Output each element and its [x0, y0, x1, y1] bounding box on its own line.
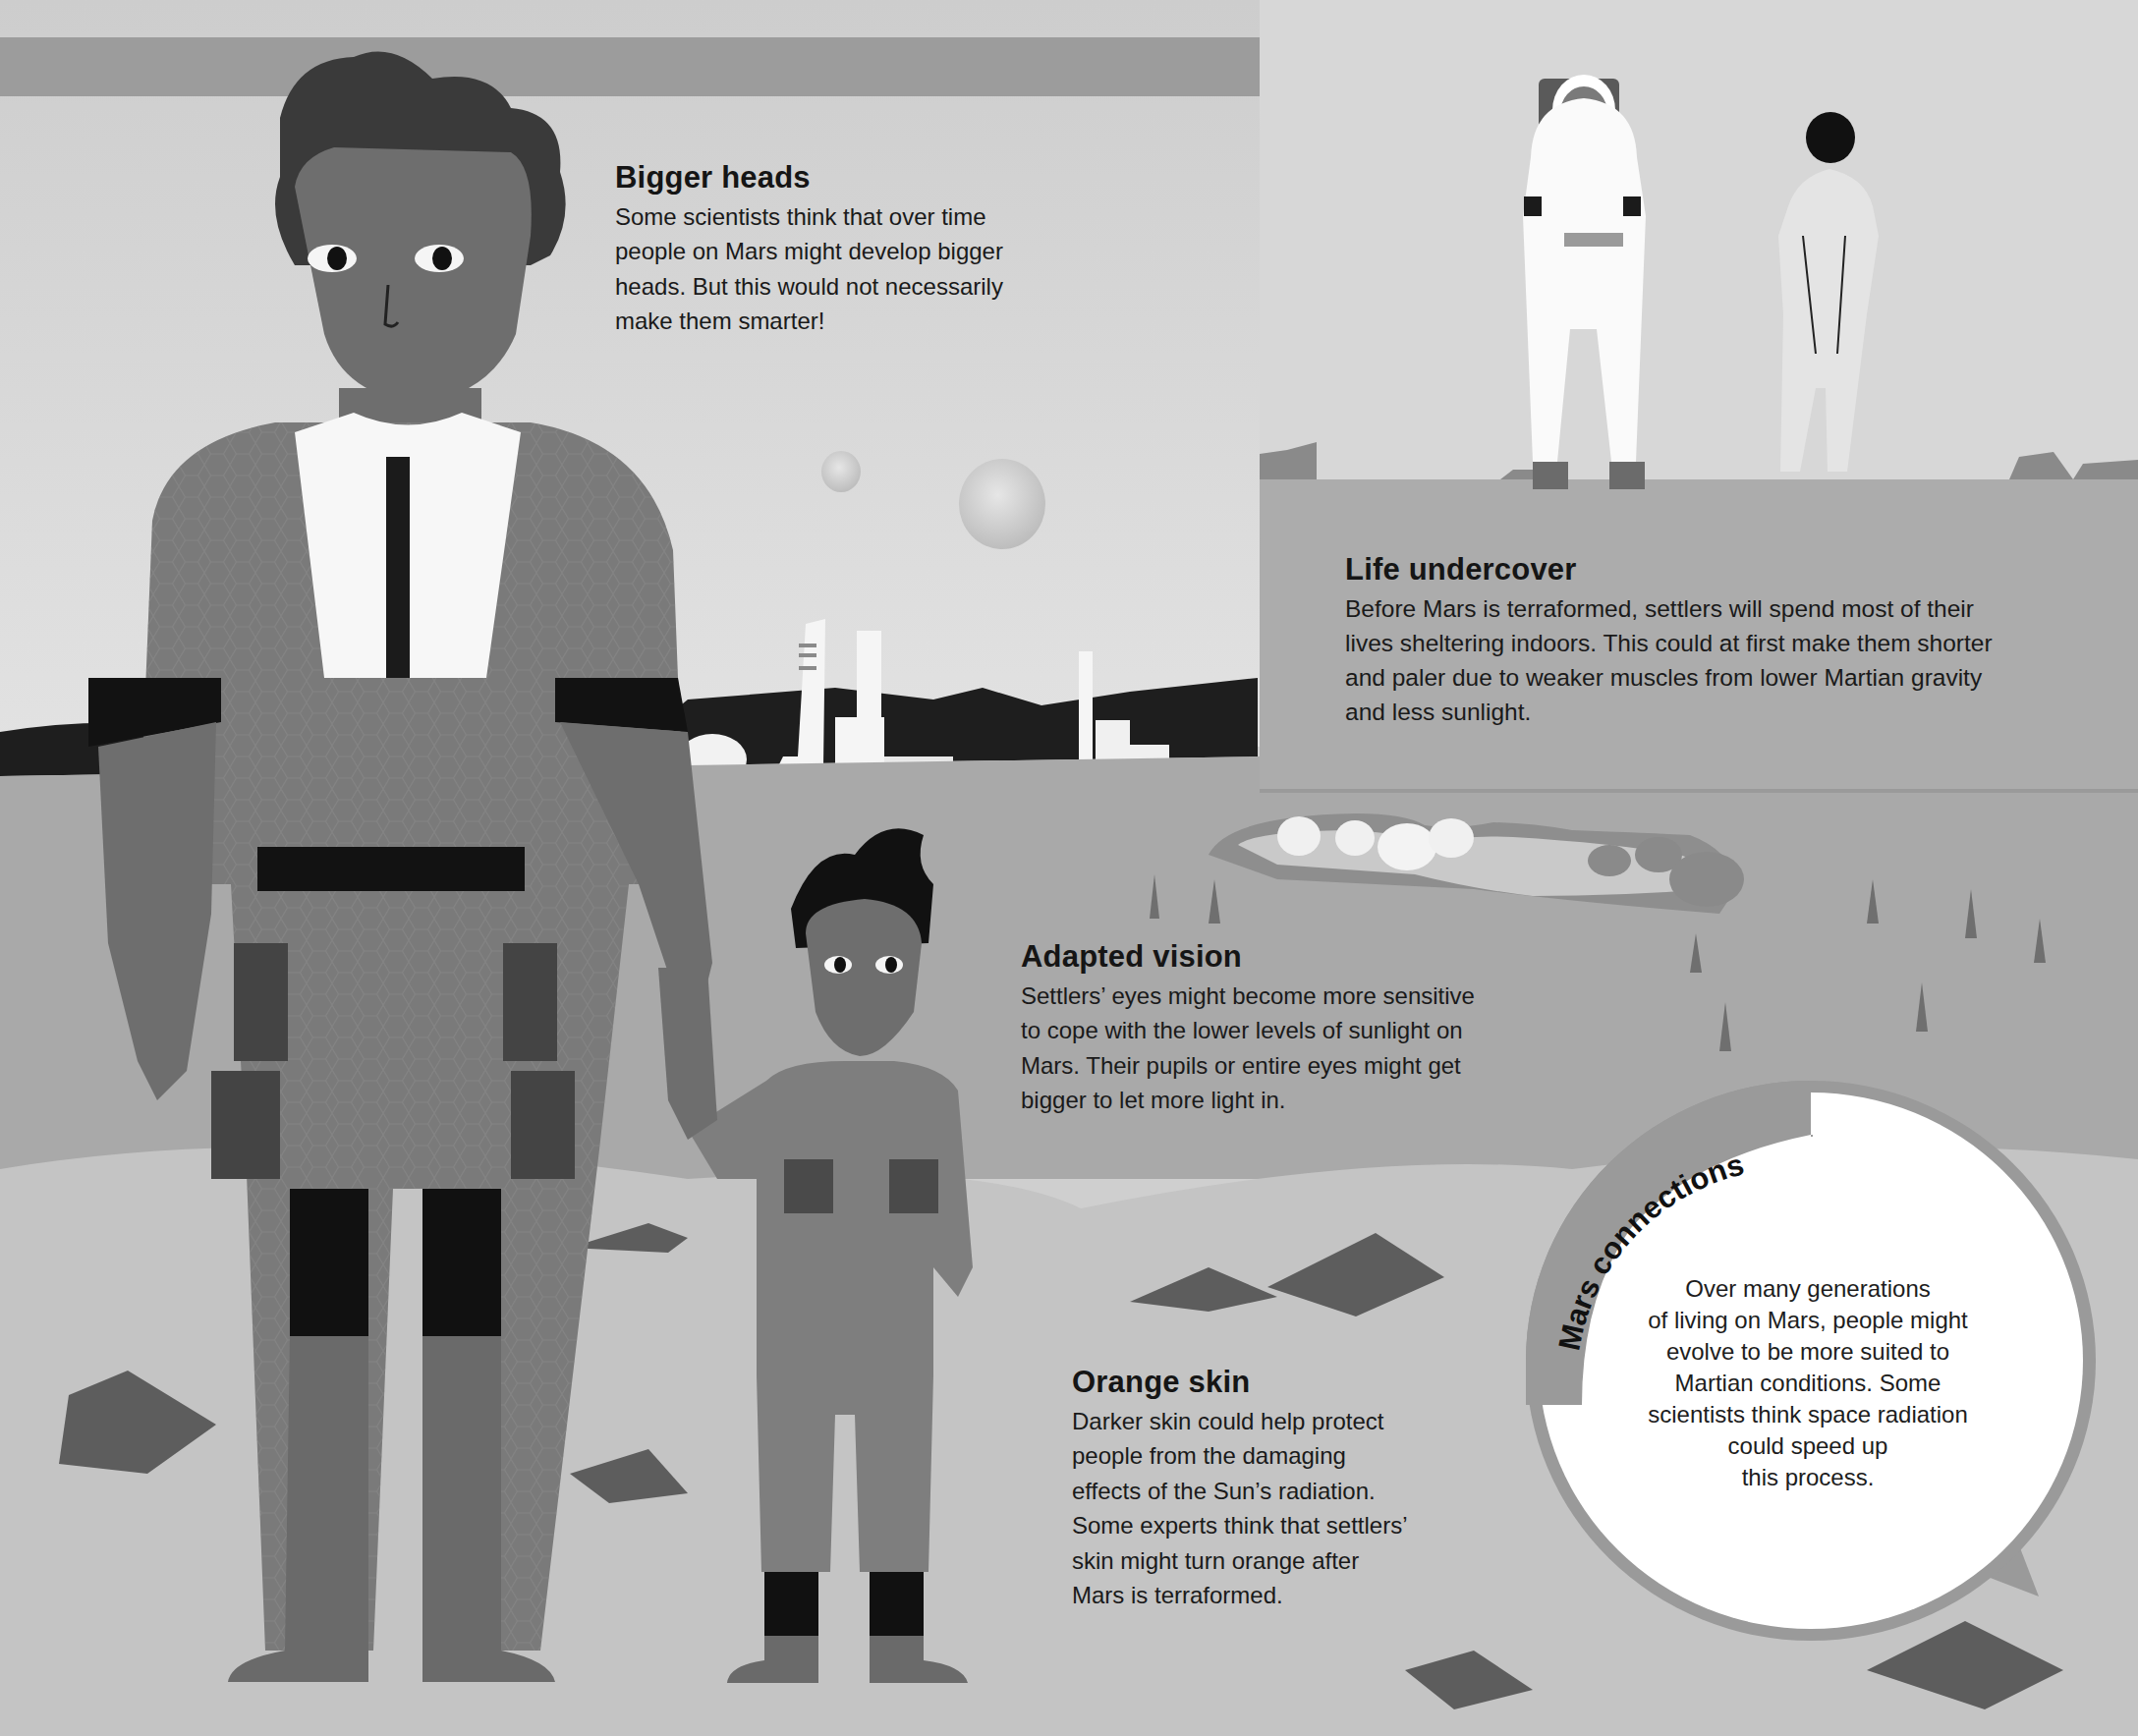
body-line: Some experts think that settlers’ [1072, 1508, 1485, 1543]
body-line: people from the damaging [1072, 1438, 1485, 1474]
header-band [0, 37, 1260, 96]
life-undercover-section: Life undercover Before Mars is terraform… [1345, 552, 2072, 729]
body-line: Before Mars is terraformed, settlers wil… [1345, 591, 2072, 626]
body-line: Mars is terraformed. [1072, 1578, 1485, 1613]
callout-line: of living on Mars, people might [1611, 1305, 2004, 1336]
adapted-vision-section: Adapted vision Settlers’ eyes might beco… [1021, 939, 1532, 1118]
bigger-heads-title: Bigger heads [615, 160, 1077, 196]
callout-line: this process. [1611, 1462, 2004, 1493]
body-line: effects of the Sun’s radiation. [1072, 1474, 1485, 1509]
body-line: and paler due to weaker muscles from low… [1345, 660, 2072, 695]
body-line: Some scientists think that over time [615, 199, 1077, 235]
callout-line: could speed up [1611, 1430, 2004, 1462]
bigger-heads-body: Some scientists think that over time peo… [615, 199, 1077, 339]
body-line: people on Mars might develop bigger [615, 234, 1077, 269]
adapted-vision-title: Adapted vision [1021, 939, 1532, 975]
body-line: Settlers’ eyes might become more sensiti… [1021, 979, 1532, 1014]
body-line: Mars. Their pupils or entire eyes might … [1021, 1048, 1532, 1084]
orange-skin-body: Darker skin could help protect people fr… [1072, 1404, 1485, 1613]
callout-line: evolve to be more suited to [1611, 1336, 2004, 1368]
bigger-heads-section: Bigger heads Some scientists think that … [615, 160, 1077, 339]
callout-line: Martian conditions. Some [1611, 1368, 2004, 1399]
body-line: bigger to let more light in. [1021, 1083, 1532, 1118]
body-line: lives sheltering indoors. This could at … [1345, 626, 2072, 660]
life-undercover-title: Life undercover [1345, 552, 2072, 588]
body-line: Darker skin could help protect [1072, 1404, 1485, 1439]
body-line: make them smarter! [615, 304, 1077, 339]
life-undercover-body: Before Mars is terraformed, settlers wil… [1345, 591, 2072, 729]
body-line: skin might turn orange after [1072, 1543, 1485, 1579]
callout-line: scientists think space radiation [1611, 1399, 2004, 1430]
body-line: and less sunlight. [1345, 695, 2072, 729]
mars-connections-text: Over many generations of living on Mars,… [1611, 1273, 2004, 1493]
callout-line: Over many generations [1611, 1273, 2004, 1305]
adapted-vision-body: Settlers’ eyes might become more sensiti… [1021, 979, 1532, 1118]
body-line: heads. But this would not necessarily [615, 269, 1077, 305]
orange-skin-section: Orange skin Darker skin could help prote… [1072, 1365, 1485, 1613]
body-line: to cope with the lower levels of sunligh… [1021, 1013, 1532, 1048]
orange-skin-title: Orange skin [1072, 1365, 1485, 1400]
